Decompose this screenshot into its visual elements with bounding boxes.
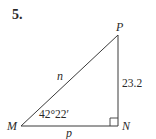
- vertex-label-P: P: [116, 21, 123, 34]
- vertex-label-N: N: [122, 120, 130, 133]
- right-angle-marker: [110, 118, 118, 126]
- side-length-NP: 23.2: [122, 77, 142, 90]
- vertex-label-M: M: [7, 120, 17, 133]
- side-label-base: p: [66, 127, 72, 139]
- triangle-figure: [0, 0, 156, 139]
- angle-label-M: 42°22′: [39, 108, 69, 121]
- hypotenuse-MP: [21, 35, 118, 126]
- right-triangle-diagram: 5. P N M n p 23.2 42°22′: [0, 0, 156, 139]
- side-label-hypotenuse: n: [57, 70, 63, 83]
